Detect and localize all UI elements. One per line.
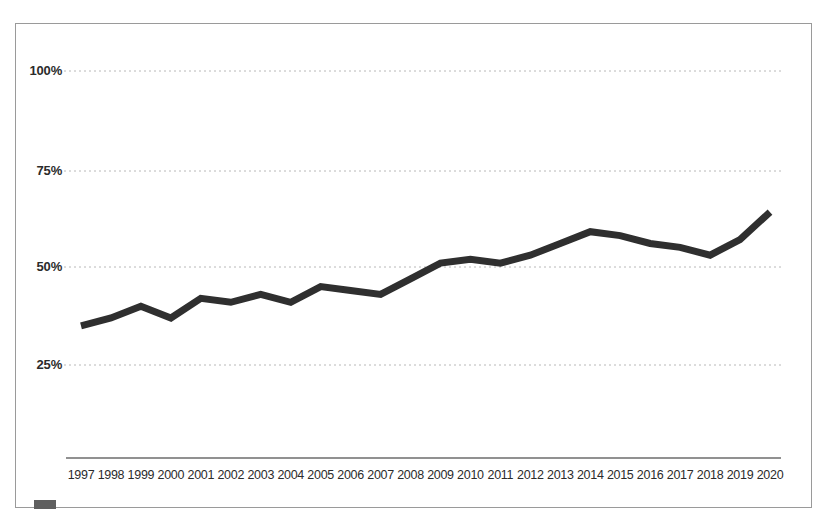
ytick-label-75: 75%: [16, 163, 62, 178]
x-axis-line: [16, 24, 813, 509]
chart-frame: 100% 75% 50% 25% 19971998199920002001200…: [15, 23, 812, 508]
chart-legend: [34, 500, 64, 509]
legend-swatch: [34, 500, 56, 509]
ytick-label-25: 25%: [16, 357, 62, 372]
xtick-label-2020: 2020: [750, 468, 790, 482]
ytick-label-50: 50%: [16, 259, 62, 274]
plot-area: 100% 75% 50% 25% 19971998199920002001200…: [16, 24, 813, 509]
ytick-label-100: 100%: [16, 63, 62, 78]
